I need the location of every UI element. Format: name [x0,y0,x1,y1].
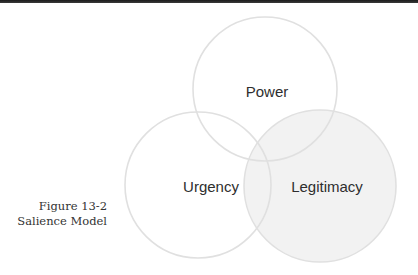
figure-number: Figure 13-2 [17,199,107,214]
figure-title: Salience Model [17,214,107,229]
urgency-label: Urgency [183,178,239,195]
legitimacy-label: Legitimacy [291,178,363,195]
figure-caption: Figure 13-2 Salience Model [17,199,107,229]
power-label: Power [246,83,289,100]
salience-venn-diagram: Power Urgency Legitimacy [0,0,418,275]
